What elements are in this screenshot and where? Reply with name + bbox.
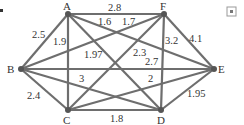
- node-label: A: [63, 0, 71, 12]
- edge-weight-label: 1.7: [122, 16, 135, 27]
- node-D: [158, 107, 164, 113]
- node-label: C: [63, 114, 70, 125]
- edge-weight-label: 1.6: [98, 16, 111, 27]
- node-C: [65, 107, 71, 113]
- bullet-marker: [0, 9, 3, 12]
- edge-weight-label: 4.1: [189, 33, 202, 44]
- expand-icon[interactable]: [227, 7, 236, 16]
- edge-weight-label: 2.5: [32, 29, 45, 40]
- edge-weight-label: 3.2: [165, 35, 178, 46]
- edge-weight-label: 1.9: [53, 36, 66, 47]
- edge-weight-label: 2.4: [27, 90, 41, 101]
- edges: [21, 14, 214, 110]
- edge-weight-label: 2.8: [108, 2, 121, 13]
- node-label: D: [157, 114, 165, 125]
- node-B: [18, 66, 24, 72]
- edge-weight-label: 3: [79, 73, 84, 84]
- edge-F-D: [161, 14, 164, 110]
- edge-weight-label: 1.8: [110, 113, 123, 124]
- node-label: E: [218, 63, 225, 75]
- edge-weight-label: 1.97: [84, 49, 102, 60]
- edge-weight-label: 2: [148, 73, 153, 84]
- node-E: [211, 66, 217, 72]
- node-label: B: [7, 63, 14, 75]
- node-label: F: [160, 0, 166, 12]
- weighted-graph: 2.82.51.91.61.971.73.24.12.32.732.421.81…: [0, 0, 244, 125]
- edge-weight-label: 2.7: [145, 56, 158, 67]
- edge-weight-label: 1.95: [187, 88, 205, 99]
